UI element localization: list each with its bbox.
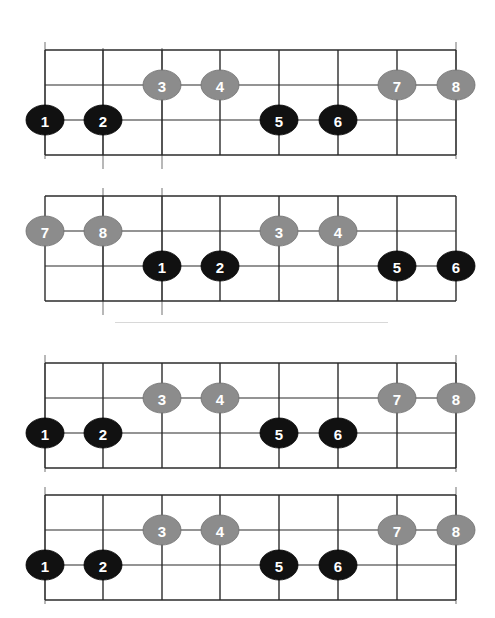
note-marker-1[interactable]: 1 [26, 550, 64, 580]
note-marker-6[interactable]: 6 [437, 251, 475, 281]
fretboard-diagram-4-svg: 12345678AB [0, 487, 495, 617]
label-b-bottom: B [94, 169, 104, 172]
note-marker-4[interactable]: 4 [319, 216, 357, 246]
note-marker-6[interactable]: 6 [319, 550, 357, 580]
note-marker-2[interactable]: 2 [84, 418, 122, 448]
note-label: 6 [452, 259, 460, 276]
group-separator [115, 322, 388, 323]
note-label: 7 [393, 523, 401, 540]
note-label: 1 [158, 259, 166, 276]
note-label: 6 [334, 113, 342, 130]
note-marker-7[interactable]: 7 [378, 383, 416, 413]
note-label: 1 [41, 113, 49, 130]
note-label: 5 [275, 113, 283, 130]
note-marker-2[interactable]: 2 [201, 251, 239, 281]
note-label: 3 [275, 224, 283, 241]
note-marker-3[interactable]: 3 [143, 383, 181, 413]
note-marker-3[interactable]: 3 [143, 515, 181, 545]
note-marker-6[interactable]: 6 [319, 105, 357, 135]
note-label: 7 [393, 78, 401, 95]
note-label: 4 [216, 391, 225, 408]
note-marker-8[interactable]: 8 [437, 70, 475, 100]
note-label: 1 [41, 558, 49, 575]
note-marker-4[interactable]: 4 [201, 515, 239, 545]
diagram-canvas: 12345678ABBA78123456BA12345678AB12345678… [0, 0, 495, 618]
note-marker-5[interactable]: 5 [260, 418, 298, 448]
fretboard-diagram-3-svg: 12345678AB [0, 355, 495, 485]
note-label: 4 [216, 523, 225, 540]
note-label: 3 [158, 391, 166, 408]
fretboard-diagram-2-svg: 78123456BA [0, 188, 495, 318]
note-marker-1[interactable]: 1 [26, 418, 64, 448]
note-label: 3 [158, 78, 166, 95]
note-marker-4[interactable]: 4 [201, 70, 239, 100]
note-marker-8[interactable]: 8 [437, 515, 475, 545]
note-label: 4 [216, 78, 225, 95]
note-label: 5 [275, 426, 283, 443]
note-label: 8 [452, 391, 460, 408]
note-label: 7 [41, 224, 49, 241]
note-label: 2 [99, 426, 107, 443]
note-marker-7[interactable]: 7 [378, 515, 416, 545]
note-marker-7[interactable]: 7 [26, 216, 64, 246]
note-label: 1 [41, 426, 49, 443]
note-marker-3[interactable]: 3 [143, 70, 181, 100]
note-marker-6[interactable]: 6 [319, 418, 357, 448]
note-marker-5[interactable]: 5 [260, 105, 298, 135]
note-marker-2[interactable]: 2 [84, 105, 122, 135]
note-label: 7 [393, 391, 401, 408]
fretboard-diagram-3: 12345678AB [0, 355, 495, 485]
note-label: 4 [334, 224, 343, 241]
note-marker-8[interactable]: 8 [437, 383, 475, 413]
note-marker-5[interactable]: 5 [260, 550, 298, 580]
note-marker-1[interactable]: 1 [143, 251, 181, 281]
note-label: 6 [334, 558, 342, 575]
note-marker-5[interactable]: 5 [378, 251, 416, 281]
note-label: 8 [452, 78, 460, 95]
label-a-bottom: A [153, 169, 163, 172]
note-marker-1[interactable]: 1 [26, 105, 64, 135]
note-label: 3 [158, 523, 166, 540]
note-label: 8 [452, 523, 460, 540]
note-label: 6 [334, 426, 342, 443]
fretboard-diagram-4: 12345678AB [0, 487, 495, 617]
note-marker-7[interactable]: 7 [378, 70, 416, 100]
note-label: 5 [275, 558, 283, 575]
fretboard-diagram-1-svg: 12345678ABBA [0, 42, 495, 172]
note-label: 8 [99, 224, 107, 241]
note-label: 2 [99, 113, 107, 130]
note-label: 5 [393, 259, 401, 276]
note-marker-8[interactable]: 8 [84, 216, 122, 246]
note-marker-4[interactable]: 4 [201, 383, 239, 413]
note-marker-3[interactable]: 3 [260, 216, 298, 246]
note-marker-2[interactable]: 2 [84, 550, 122, 580]
note-label: 2 [99, 558, 107, 575]
fretboard-diagram-1: 12345678ABBA [0, 42, 495, 172]
note-label: 2 [216, 259, 224, 276]
fretboard-diagram-2: 78123456BA [0, 188, 495, 318]
